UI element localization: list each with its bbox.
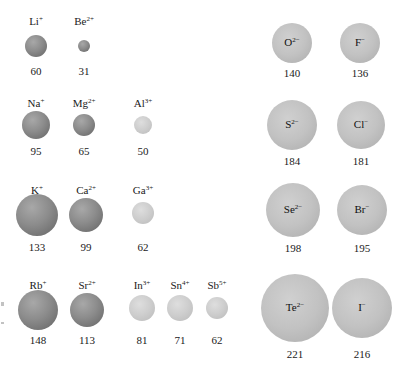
anion-label-cl: Cl− xyxy=(354,119,368,130)
ion-charge: 2− xyxy=(295,203,302,211)
anion-radius-cl: 181 xyxy=(353,156,370,167)
cropped-edge-mark xyxy=(1,322,4,324)
cation-label-na: Na+ xyxy=(28,98,45,109)
cation-sphere-na xyxy=(22,111,50,139)
ion-charge: 4+ xyxy=(182,279,189,287)
cation-radius-ca: 99 xyxy=(81,242,92,253)
ion-symbol: Te xyxy=(286,301,297,313)
ion-symbol: O xyxy=(284,36,292,48)
cation-sphere-sb xyxy=(206,297,228,319)
anion-radius-te: 221 xyxy=(287,349,304,360)
ion-symbol: Br xyxy=(355,203,366,215)
ion-charge: − xyxy=(361,36,365,44)
ion-charge: + xyxy=(42,279,46,287)
cation-sphere-li xyxy=(25,35,47,57)
anion-label-se: Se2− xyxy=(284,204,302,215)
cation-label-sn: Sn4+ xyxy=(170,280,189,291)
anion-label-br: Br− xyxy=(355,204,370,215)
cation-sphere-mg xyxy=(73,114,95,136)
cation-sphere-rb xyxy=(18,290,58,330)
ion-symbol: Cl xyxy=(354,118,364,130)
cropped-edge-mark xyxy=(1,302,4,306)
ion-symbol: Ga xyxy=(133,184,146,196)
ion-symbol: Al xyxy=(134,97,145,109)
cation-sphere-sr xyxy=(70,293,104,327)
cation-label-al: Al3+ xyxy=(134,98,152,109)
cation-sphere-ga xyxy=(132,202,154,224)
ion-charge: 5+ xyxy=(219,279,226,287)
cation-radius-na: 95 xyxy=(31,146,42,157)
anion-radius-o: 140 xyxy=(284,68,301,79)
anion-label-o: O2− xyxy=(284,37,299,48)
ion-charge: − xyxy=(366,203,370,211)
cation-sphere-in xyxy=(129,295,155,321)
cation-label-ca: Ca2+ xyxy=(76,185,96,196)
cation-sphere-ca xyxy=(69,198,103,232)
anion-radius-i: 216 xyxy=(354,349,371,360)
cation-radius-al: 50 xyxy=(138,146,149,157)
ion-charge: + xyxy=(39,15,43,23)
anion-label-s: S2− xyxy=(285,119,299,130)
anion-radius-br: 195 xyxy=(354,243,371,254)
cation-radius-k: 133 xyxy=(29,242,46,253)
cation-sphere-sn xyxy=(167,295,193,321)
cation-label-sr: Sr2+ xyxy=(78,280,95,291)
anion-label-te: Te2− xyxy=(286,302,304,313)
ion-symbol: Be xyxy=(74,15,86,27)
anion-radius-se: 198 xyxy=(285,243,302,254)
ion-symbol: Ca xyxy=(76,184,88,196)
cation-radius-rb: 148 xyxy=(30,335,47,346)
ion-charge: 2− xyxy=(292,36,299,44)
ion-charge: 2+ xyxy=(86,15,93,23)
cation-radius-ga: 62 xyxy=(138,242,149,253)
ion-symbol: Sn xyxy=(170,279,182,291)
cation-sphere-al xyxy=(134,116,152,134)
ion-symbol: Sb xyxy=(207,279,219,291)
ion-charge: 2− xyxy=(291,118,298,126)
ion-charge: 2+ xyxy=(88,97,95,105)
ion-charge: 2+ xyxy=(88,279,95,287)
ion-charge: + xyxy=(39,184,43,192)
cation-label-li: Li+ xyxy=(29,16,43,27)
cation-sphere-k xyxy=(16,194,58,236)
ion-symbol: Li xyxy=(29,15,39,27)
ion-symbol: Sr xyxy=(78,279,88,291)
cation-radius-be: 31 xyxy=(79,66,90,77)
cation-radius-sn: 71 xyxy=(175,335,186,346)
cation-radius-li: 60 xyxy=(31,66,42,77)
anion-label-i: I− xyxy=(358,302,366,313)
cation-label-ga: Ga3+ xyxy=(133,185,153,196)
cation-label-be: Be2+ xyxy=(74,16,94,27)
ion-symbol: Na xyxy=(28,97,41,109)
ion-symbol: In xyxy=(134,279,143,291)
cation-radius-sb: 62 xyxy=(212,335,223,346)
ion-charge: + xyxy=(40,97,44,105)
cation-radius-mg: 65 xyxy=(79,146,90,157)
ion-charge: 3+ xyxy=(143,279,150,287)
ion-charge: − xyxy=(364,118,368,126)
cation-radius-sr: 113 xyxy=(79,335,95,346)
ion-charge: − xyxy=(362,301,366,309)
ion-symbol: Se xyxy=(284,203,295,215)
cation-radius-in: 81 xyxy=(137,335,148,346)
ion-symbol: Mg xyxy=(73,97,88,109)
ion-charge: 2− xyxy=(297,301,304,309)
ion-charge: 2+ xyxy=(88,184,95,192)
cation-sphere-be xyxy=(78,40,90,52)
anion-radius-s: 184 xyxy=(284,156,301,167)
ion-charge: 3+ xyxy=(146,184,153,192)
cation-label-mg: Mg2+ xyxy=(73,98,96,109)
anion-radius-f: 136 xyxy=(352,68,369,79)
anion-label-f: F− xyxy=(355,37,365,48)
ion-charge: 3+ xyxy=(145,97,152,105)
cation-label-in: In3+ xyxy=(134,280,151,291)
cation-label-sb: Sb5+ xyxy=(207,280,226,291)
